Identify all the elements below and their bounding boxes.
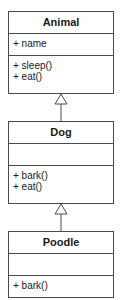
attributes-section: + name <box>9 34 113 56</box>
attribute: + name <box>13 38 113 49</box>
methods-section: + bark() + eat() <box>9 166 113 203</box>
method: + eat() <box>13 181 113 192</box>
class-animal: Animal + name + sleep() + eat() <box>8 11 114 94</box>
method: + eat() <box>13 71 113 82</box>
generalization-arrow-icon <box>0 93 124 122</box>
methods-section: + sleep() + eat() <box>9 56 113 93</box>
class-name: Poodle <box>9 232 113 254</box>
generalization-arrow-icon <box>0 203 124 232</box>
attributes-section <box>9 254 113 276</box>
method: + sleep() <box>13 60 113 71</box>
class-poodle: Poodle + bark() <box>8 231 114 298</box>
class-dog: Dog + bark() + eat() <box>8 121 114 204</box>
attributes-section <box>9 144 113 166</box>
class-name: Dog <box>9 122 113 144</box>
method: + bark() <box>13 280 113 291</box>
class-name: Animal <box>9 12 113 34</box>
method: + bark() <box>13 170 113 181</box>
methods-section: + bark() <box>9 276 113 297</box>
